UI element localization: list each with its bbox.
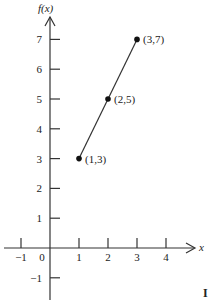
function-plot: −101234 −11234567 x f(x) (1,3)(2,5)(3,7)… <box>0 0 208 300</box>
y-tick-label: 6 <box>37 63 43 75</box>
x-ticks: −101234 <box>15 238 169 263</box>
data-point-label: (1,3) <box>85 153 106 166</box>
y-tick-label: 2 <box>37 182 43 194</box>
x-tick-label: 1 <box>76 251 82 263</box>
y-tick-label: 5 <box>37 93 43 105</box>
y-tick-label: −1 <box>30 272 42 284</box>
x-tick-label: 4 <box>163 251 169 263</box>
data-point <box>76 156 82 162</box>
data-point-label: (3,7) <box>143 33 164 46</box>
x-tick-label: 0 <box>39 251 45 263</box>
x-axis-label: x <box>198 241 204 253</box>
y-ticks: −11234567 <box>30 33 60 283</box>
x-tick-label: 2 <box>105 251 111 263</box>
series-line: (1,3)(2,5)(3,7) <box>76 33 164 165</box>
data-point <box>134 37 140 43</box>
y-tick-label: 7 <box>37 33 43 45</box>
y-axis-label: f(x) <box>38 2 54 15</box>
x-tick-label: −1 <box>15 251 27 263</box>
y-tick-label: 3 <box>37 153 43 165</box>
data-point-label: (2,5) <box>114 93 135 106</box>
x-tick-label: 3 <box>134 251 140 263</box>
y-tick-label: 1 <box>37 212 43 224</box>
corner-mark: I <box>203 286 208 300</box>
data-point <box>105 96 111 102</box>
y-tick-label: 4 <box>37 123 43 135</box>
